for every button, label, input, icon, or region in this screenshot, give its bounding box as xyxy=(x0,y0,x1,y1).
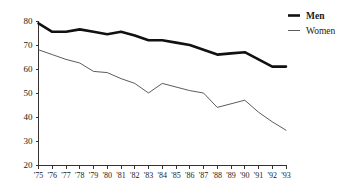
y-tick-label: 20 xyxy=(24,160,34,170)
x-tick-label: '75 xyxy=(34,171,43,180)
x-tick-label: '79 xyxy=(89,171,98,180)
x-tick-label: '82 xyxy=(130,171,139,180)
line-chart: 20304050607080 '75'76'77'78'79'80'81'82'… xyxy=(0,0,346,191)
x-tick-label: '88 xyxy=(213,171,222,180)
y-tick-label: 80 xyxy=(24,16,34,26)
legend-label-women: Women xyxy=(306,26,336,36)
x-tick-label: '93 xyxy=(281,171,290,180)
x-tick-label: '86 xyxy=(185,171,194,180)
y-tick-label: 30 xyxy=(24,136,34,146)
chart-canvas: 20304050607080 '75'76'77'78'79'80'81'82'… xyxy=(0,0,346,191)
y-tick-label: 50 xyxy=(24,88,34,98)
x-tick-label: '84 xyxy=(158,171,167,180)
y-tick-label: 40 xyxy=(24,112,34,122)
x-tick-label: '89 xyxy=(226,171,235,180)
x-tick-label: '90 xyxy=(240,171,249,180)
x-tick-label: '78 xyxy=(75,171,84,180)
x-tick-label: '80 xyxy=(103,171,112,180)
x-tick-label: '77 xyxy=(61,171,70,180)
x-tick-label: '81 xyxy=(116,171,125,180)
x-tick-label: '92 xyxy=(268,171,277,180)
y-tick-label: 70 xyxy=(24,40,34,50)
y-tick-label: 60 xyxy=(24,64,34,74)
x-tick-label: '76 xyxy=(48,171,57,180)
chart-background xyxy=(0,0,346,191)
x-tick-label: '85 xyxy=(171,171,180,180)
x-tick-label: '91 xyxy=(254,171,263,180)
legend-label-men: Men xyxy=(306,11,325,21)
x-tick-label: '87 xyxy=(199,171,208,180)
x-tick-label: '83 xyxy=(144,171,153,180)
